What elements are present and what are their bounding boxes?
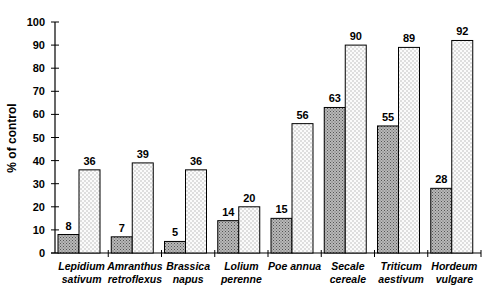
bar-value-label: 14 — [222, 206, 235, 218]
bar-group: 5589Triticumaestivum — [378, 32, 424, 285]
x-category-label: Lepidium — [58, 260, 105, 272]
x-category-label: perenne — [220, 273, 262, 285]
bar-value-label: 63 — [329, 92, 341, 104]
bar — [239, 207, 260, 253]
bar — [292, 124, 313, 253]
x-category-label: Amranthus — [106, 260, 163, 272]
bar — [345, 45, 366, 253]
bar-value-label: 89 — [403, 32, 415, 44]
bar — [399, 47, 420, 253]
x-category-label: Triticum — [381, 260, 422, 272]
y-axis-label: % of control — [5, 103, 19, 172]
bar — [165, 241, 186, 253]
bar-value-label: 36 — [83, 155, 95, 167]
bar-group: 536Brassicanapus — [165, 155, 211, 285]
x-category-label: napus — [173, 273, 204, 285]
bar-value-label: 8 — [65, 220, 71, 232]
bar-chart: 0102030405060708090100 836Lepidiumsativu… — [0, 0, 498, 297]
bar — [111, 237, 132, 253]
bar-group: 6390Secalecereale — [324, 30, 366, 285]
bar-group: 739Amranthusretroflexus — [106, 148, 163, 285]
bar-value-label: 28 — [435, 173, 447, 185]
bar — [218, 221, 239, 253]
x-category-label: sativum — [62, 273, 102, 285]
x-category-label: Hordeum — [431, 260, 477, 272]
bar-group: 1556Poe annua — [268, 109, 321, 272]
bar — [324, 107, 345, 253]
x-category-label: Poe annua — [268, 260, 321, 272]
bar-value-label: 36 — [190, 155, 202, 167]
y-tick-label: 50 — [33, 132, 45, 144]
bar — [452, 40, 473, 253]
y-tick-label: 70 — [33, 85, 45, 97]
bar — [58, 235, 79, 253]
y-tick-label: 30 — [33, 178, 45, 190]
y-tick-label: 0 — [39, 247, 45, 259]
x-category-label: aestivum — [378, 273, 424, 285]
x-category-label: vulgare — [436, 273, 474, 285]
y-tick-label: 90 — [33, 39, 45, 51]
x-category-label: Secale — [331, 260, 364, 272]
y-tick-label: 100 — [27, 16, 45, 28]
bar-value-label: 20 — [243, 192, 255, 204]
bar-value-label: 56 — [296, 109, 308, 121]
bar-value-label: 55 — [382, 111, 394, 123]
bar — [132, 163, 153, 253]
bar-value-label: 39 — [137, 148, 149, 160]
x-category-label: retroflexus — [108, 273, 162, 285]
bar — [271, 218, 292, 253]
bar-value-label: 15 — [275, 203, 287, 215]
bar — [186, 170, 207, 253]
y-tick-label: 80 — [33, 62, 45, 74]
x-category-label: cereale — [330, 273, 366, 285]
bar-group: 2892Hordeumvulgare — [431, 25, 478, 285]
y-tick-label: 20 — [33, 201, 45, 213]
bar-group: 836Lepidiumsativum — [58, 155, 105, 285]
bar — [431, 188, 452, 253]
bar-group: 1420Loliumperenne — [218, 192, 262, 285]
y-tick-label: 40 — [33, 155, 45, 167]
bar-value-label: 92 — [456, 25, 468, 37]
bar — [79, 170, 100, 253]
y-tick-label: 60 — [33, 108, 45, 120]
bar-value-label: 5 — [172, 226, 178, 238]
bar — [378, 126, 399, 253]
x-category-label: Lolium — [224, 260, 258, 272]
bar-value-label: 7 — [119, 222, 125, 234]
y-tick-label: 10 — [33, 224, 45, 236]
bars: 836Lepidiumsativum739Amranthusretroflexu… — [58, 25, 477, 285]
bar-value-label: 90 — [350, 30, 362, 42]
x-category-label: Brassica — [166, 260, 210, 272]
